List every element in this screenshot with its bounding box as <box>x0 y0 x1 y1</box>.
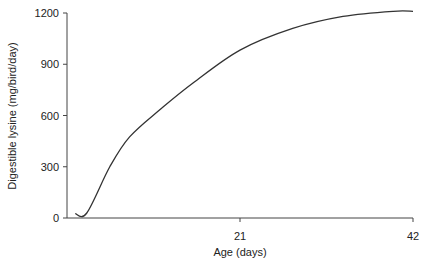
lysine-curve <box>75 11 413 217</box>
y-tick-label: 300 <box>41 161 59 173</box>
y-axis-title: Digestible lysine (mg/bird/day) <box>6 42 18 189</box>
y-tick-label: 900 <box>41 58 59 70</box>
x-tick-label: 21 <box>234 230 246 242</box>
x-tick-label: 42 <box>407 230 419 242</box>
y-tick-label: 0 <box>53 212 59 224</box>
y-tick-label: 1200 <box>35 7 59 19</box>
x-axis-title: Age (days) <box>213 246 266 258</box>
data-series <box>75 11 413 217</box>
y-axis: 03006009001200 <box>35 7 67 224</box>
y-tick-label: 600 <box>41 110 59 122</box>
line-chart: 03006009001200 2142 Age (days) Digestibl… <box>0 0 423 265</box>
x-axis: 2142 <box>67 218 419 242</box>
